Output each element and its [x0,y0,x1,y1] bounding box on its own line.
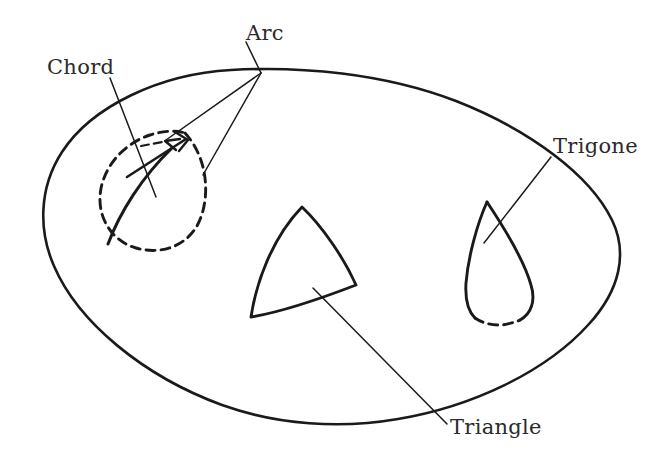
trigone-leader-line [484,157,551,243]
chord-leader-line [110,78,156,197]
outer-oval [43,69,620,424]
triangle-leader-line [313,288,447,424]
arc-leader-to-dashed-arc [166,73,261,140]
trigone-region-solid-left [466,202,487,318]
arc-dashed-stub [141,141,168,146]
trigone-region-dashed-base [475,318,520,325]
geometry-diagram: Chord Arc Trigone Triangle [0,0,653,457]
arc-leader-to-solid-arc [203,73,261,175]
label-chord: Chord [47,57,114,78]
chord-curve [108,148,172,244]
label-arc: Arc [246,23,284,44]
chord-arc-region-dashed-outline [100,131,206,250]
triangle-region-outline [251,207,356,317]
label-trigone: Trigone [553,136,638,157]
trigone-region-solid-upper [487,202,533,320]
label-triangle: Triangle [450,417,542,438]
